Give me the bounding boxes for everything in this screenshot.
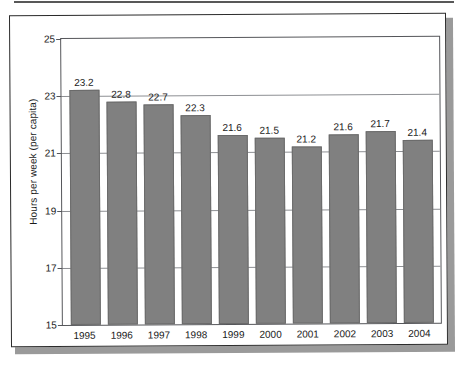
bar-series: 23.222.822.722.321.621.521.221.621.721.4: [61, 37, 441, 325]
bar[interactable]: 22.8: [106, 101, 137, 324]
bar-slot: 21.4: [398, 37, 437, 323]
x-axis-tick-label: 1997: [140, 329, 177, 340]
bar-value-label: 22.7: [148, 91, 168, 102]
bar-slot: 21.7: [361, 37, 400, 323]
y-axis-tick-label: 21: [45, 148, 56, 159]
bar[interactable]: 21.4: [402, 140, 433, 323]
plot-area: 151719212325 23.222.822.722.321.621.521.…: [60, 36, 442, 326]
y-axis-tick-label: 25: [44, 34, 55, 45]
y-axis-tick-label: 19: [45, 205, 56, 216]
y-axis-title: Hours per week (per capita): [27, 77, 39, 247]
y-tick-mark: [58, 325, 63, 326]
chart-figure: Hours per week (per capita) 151719212325…: [10, 14, 447, 347]
bar-slot: 22.3: [176, 38, 215, 324]
x-axis-tick-label: 1998: [178, 329, 215, 340]
x-axis-tick-label: 1996: [103, 330, 140, 341]
x-axis-tick-label: 2000: [252, 329, 289, 340]
bar-value-label: 22.8: [111, 89, 131, 100]
scan-top-edge: [14, 1, 454, 3]
bar-slot: 22.7: [139, 38, 178, 324]
bar[interactable]: 21.6: [217, 135, 248, 324]
x-axis-tick-label: 2004: [401, 328, 438, 339]
bar-slot: 21.6: [324, 37, 363, 323]
chart-card: Hours per week (per capita) 151719212325…: [9, 13, 448, 348]
bar-slot: 21.6: [213, 38, 252, 324]
bar-value-label: 22.3: [185, 102, 205, 113]
bar-value-label: 23.2: [74, 77, 94, 88]
bar-slot: 21.2: [287, 37, 326, 323]
bar-value-label: 21.6: [222, 122, 242, 133]
bar[interactable]: 21.6: [328, 134, 359, 323]
y-axis-tick-label: 15: [46, 320, 57, 331]
bar[interactable]: 21.2: [291, 146, 322, 323]
bar-value-label: 21.2: [296, 133, 316, 144]
y-axis-tick-label: 17: [45, 262, 56, 273]
x-axis-tick-label: 2001: [289, 328, 326, 339]
bar-value-label: 21.7: [370, 118, 390, 129]
bar[interactable]: 23.2: [69, 90, 100, 325]
bar[interactable]: 22.3: [180, 115, 211, 324]
x-axis-tick-label: 2003: [364, 328, 401, 339]
x-axis-tick-label: 2002: [326, 328, 363, 339]
bar[interactable]: 21.7: [365, 131, 396, 323]
x-axis-tick-label: 1995: [66, 330, 103, 341]
bar-slot: 21.5: [250, 38, 289, 324]
bar-value-label: 21.6: [333, 121, 353, 132]
bar[interactable]: 21.5: [254, 138, 285, 324]
bar-value-label: 21.4: [407, 127, 427, 138]
bar-value-label: 21.5: [259, 125, 279, 136]
bar-slot: 22.8: [102, 39, 141, 325]
bar-slot: 23.2: [65, 39, 104, 325]
bar[interactable]: 22.7: [143, 104, 174, 324]
y-axis-tick-label: 23: [44, 91, 55, 102]
x-axis-tick-labels: 1995199619971998199920002001200220032004: [62, 328, 442, 341]
x-axis-tick-label: 1999: [215, 329, 252, 340]
